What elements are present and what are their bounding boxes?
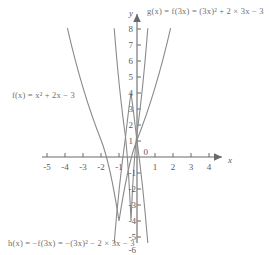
y-tick-label: 3 — [129, 104, 134, 114]
x-tick-label: -4 — [61, 162, 69, 172]
y-tick-label: 1 — [129, 136, 134, 146]
equation-label-f: f(x) = x² + 2x − 3 — [12, 90, 75, 100]
equation-label-h: h(x) = −f(3x) = −(3x)² − 2 × 3x − 3 — [8, 238, 135, 248]
y-tick-label: -1 — [129, 168, 137, 178]
graph-figure: -5 -4 -3 -2 -1 1 2 3 4 8 7 6 5 4 3 2 1 0… — [0, 0, 269, 255]
y-tick-label: 6 — [129, 56, 134, 66]
y-tick-label: 7 — [129, 40, 134, 50]
x-axis-label: x — [227, 155, 232, 165]
x-tick-label: -2 — [97, 162, 105, 172]
x-tick-label: 4 — [207, 162, 212, 172]
y-axis-arrow — [133, 14, 141, 22]
equation-label-g: g(x) = f(3x) = (3x)² + 2 × 3x − 3 — [147, 6, 264, 16]
x-tick-label: -3 — [79, 162, 87, 172]
y-tick-marks — [137, 29, 141, 237]
y-tick-label: -4 — [129, 216, 137, 226]
y-tick-label: 4 — [129, 88, 134, 98]
x-tick-label: -1 — [115, 162, 123, 172]
coordinate-plot: -5 -4 -3 -2 -1 1 2 3 4 8 7 6 5 4 3 2 1 0… — [0, 0, 269, 255]
y-tick-label: 5 — [129, 72, 134, 82]
y-tick-label: -3 — [129, 200, 137, 210]
y-tick-label-zero: 0 — [144, 147, 149, 157]
x-tick-marks — [47, 153, 209, 157]
x-tick-label: -5 — [43, 162, 51, 172]
x-axis-arrow — [214, 153, 222, 161]
x-tick-label: 1 — [153, 162, 158, 172]
y-axis-label: y — [128, 8, 133, 18]
y-tick-label: 2 — [129, 120, 134, 130]
y-tick-label: 8 — [129, 24, 134, 34]
x-tick-label: 2 — [171, 162, 176, 172]
y-tick-label: -2 — [129, 184, 137, 194]
x-tick-label: 3 — [189, 162, 194, 172]
